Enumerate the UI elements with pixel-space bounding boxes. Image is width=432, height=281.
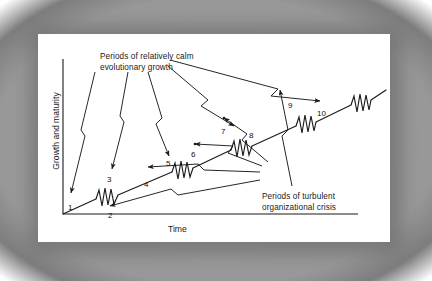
point-label-4: 4 xyxy=(144,180,149,189)
point-label-5: 5 xyxy=(166,159,171,168)
crisis-arrow-to-4 xyxy=(148,164,260,172)
point-label-9: 9 xyxy=(288,101,293,110)
crisis-arrows xyxy=(110,90,292,206)
point-label-6: 6 xyxy=(191,150,196,159)
growth-curve xyxy=(63,90,386,214)
calm-arrow-to-5 xyxy=(148,72,169,156)
growth-segment-10-end xyxy=(371,90,386,100)
point-label-3: 3 xyxy=(107,175,112,184)
crisis-arrow-to-2 xyxy=(110,180,260,206)
calm-growth-arrows xyxy=(71,60,320,193)
crisis-zigzag-4 xyxy=(296,115,316,133)
calm-arrow-to-1 xyxy=(71,72,95,193)
calm-growth-annotation: Periods of relatively calmevolutionary g… xyxy=(100,52,194,73)
crisis-annotation: Periods of turbulentorganizational crisi… xyxy=(262,192,336,213)
calm-growth-line-2: evolutionary growth xyxy=(100,63,173,72)
crisis-zigzag-5 xyxy=(351,94,371,112)
point-label-1: 1 xyxy=(68,203,73,212)
crisis-zigzag-2 xyxy=(172,161,193,179)
point-label-10: 10 xyxy=(317,109,326,118)
axis-lines xyxy=(63,59,358,214)
growth-curve-diagram: 1 2 3 4 5 6 7 8 9 10 xyxy=(38,34,390,242)
crisis-zigzag-3 xyxy=(231,139,252,157)
point-label-7: 7 xyxy=(221,127,226,136)
crisis-line-2: organizational crisis xyxy=(262,203,336,212)
figure-screenshot: 1 2 3 4 5 6 7 8 9 10 Periods of relative… xyxy=(0,0,432,281)
crisis-zigzag-symbols xyxy=(96,94,371,206)
y-axis-label: Growth and maturity xyxy=(51,76,61,186)
chart-panel: 1 2 3 4 5 6 7 8 9 10 Periods of relative… xyxy=(38,34,390,242)
growth-segment-6-7 xyxy=(252,126,296,146)
calm-arrow-to-3 xyxy=(112,72,128,169)
point-label-2: 2 xyxy=(108,211,113,220)
point-label-8: 8 xyxy=(249,131,254,140)
x-axis-label: Time xyxy=(168,224,187,234)
crisis-line-1: Periods of turbulent xyxy=(262,192,335,201)
crisis-zigzag-1 xyxy=(96,188,118,206)
point-marker-8 xyxy=(223,117,226,120)
calm-growth-line-1: Periods of relatively calm xyxy=(100,52,194,61)
point-marker-6 xyxy=(194,143,197,146)
